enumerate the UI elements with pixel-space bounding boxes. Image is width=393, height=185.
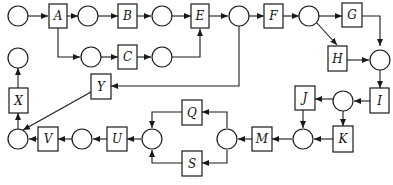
transition-k: K — [333, 126, 353, 152]
place-p11 — [142, 129, 162, 149]
transition-i: I — [370, 88, 389, 113]
svg-text:Y: Y — [97, 80, 106, 94]
place-p5 — [229, 6, 249, 26]
place-p3 — [81, 47, 101, 67]
transition-j: J — [295, 86, 315, 110]
place-p7 — [370, 50, 390, 70]
transition-e: E — [191, 4, 209, 28]
svg-text:X: X — [13, 94, 23, 108]
transition-m: M — [252, 127, 272, 151]
place-p10 — [217, 129, 237, 149]
svg-text:V: V — [44, 132, 54, 146]
transition-h: H — [328, 46, 347, 71]
transition-y: Y — [91, 74, 111, 99]
transition-g: G — [342, 3, 362, 27]
svg-text:U: U — [112, 132, 123, 146]
place-p13 — [8, 129, 28, 149]
place-p12 — [72, 129, 92, 149]
svg-text:B: B — [122, 9, 132, 23]
transition-f: F — [264, 4, 283, 28]
place-p4 — [152, 47, 172, 67]
svg-text:I: I — [376, 94, 382, 108]
place-p6 — [299, 6, 319, 26]
svg-text:Q: Q — [187, 106, 197, 120]
workflow-diagram: A B C E F G H I — [0, 0, 393, 185]
transitions: A B C E F G H I — [9, 3, 389, 176]
place-p2 — [152, 6, 172, 26]
transition-x: X — [9, 88, 28, 113]
svg-text:G: G — [347, 8, 357, 22]
figure-caption: · · · — [190, 175, 203, 184]
place-p1 — [78, 6, 98, 26]
svg-text:K: K — [338, 132, 349, 146]
svg-text:F: F — [268, 9, 278, 23]
place-start — [8, 6, 28, 26]
transition-v: V — [38, 127, 58, 151]
place-p9 — [293, 129, 313, 149]
svg-text:E: E — [195, 9, 205, 23]
svg-text:A: A — [53, 9, 63, 23]
place-end — [8, 48, 28, 68]
transition-b: B — [118, 4, 137, 28]
transition-s: S — [182, 151, 202, 176]
transition-c: C — [118, 45, 137, 69]
svg-text:H: H — [331, 52, 343, 66]
transition-q: Q — [182, 100, 202, 125]
svg-text:S: S — [188, 157, 196, 171]
svg-text:C: C — [123, 50, 132, 64]
place-p8 — [333, 91, 353, 111]
transition-a: A — [49, 4, 67, 28]
transition-u: U — [107, 127, 127, 151]
svg-text:M: M — [255, 132, 269, 146]
